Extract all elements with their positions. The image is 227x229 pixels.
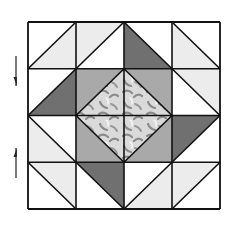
direction-arrows — [14, 56, 17, 178]
arrow-up-icon — [14, 148, 17, 178]
quilt-block-diagram — [0, 0, 227, 229]
arrow-down-icon — [14, 56, 17, 86]
